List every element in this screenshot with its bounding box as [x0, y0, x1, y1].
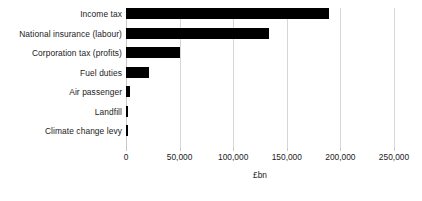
tick-100000 — [233, 148, 234, 151]
gridline-250000 — [394, 8, 395, 148]
tick-label: 250,000 — [379, 152, 409, 163]
bar — [126, 86, 130, 97]
category-label: Corporation tax (profits) — [0, 48, 122, 58]
gridline-150000 — [287, 8, 288, 148]
tick-label: 100,000 — [218, 152, 248, 163]
bar — [126, 67, 149, 78]
category-label: Income tax — [0, 9, 122, 19]
category-label: Landfill — [0, 107, 122, 117]
category-label: National insurance (labour) — [0, 29, 122, 39]
plot-area — [126, 8, 394, 148]
value-axis-labels: 0 50,000 100,000 150,000 200,000 250,000 — [126, 152, 394, 166]
tick-250000 — [394, 148, 395, 151]
gridline-200000 — [340, 8, 341, 148]
category-axis-labels: Income tax National insurance (labour) C… — [0, 8, 122, 148]
category-label: Climate change levy — [0, 126, 122, 136]
tick-0 — [126, 148, 127, 151]
bar — [126, 28, 269, 39]
tick-200000 — [340, 148, 341, 151]
tick-label: 200,000 — [325, 152, 355, 163]
bar — [126, 106, 128, 117]
x-axis-title: £bn — [126, 170, 394, 181]
category-label: Air passenger — [0, 87, 122, 97]
bar — [126, 47, 180, 58]
tick-150000 — [287, 148, 288, 151]
bar — [126, 8, 329, 19]
tick-label: 150,000 — [272, 152, 302, 163]
bar — [126, 125, 128, 136]
bar-chart: Income tax National insurance (labour) C… — [0, 0, 422, 201]
tick-label: 50,000 — [167, 152, 193, 163]
category-label: Fuel duties — [0, 68, 122, 78]
tick-label: 0 — [124, 152, 129, 163]
tick-50000 — [180, 148, 181, 151]
